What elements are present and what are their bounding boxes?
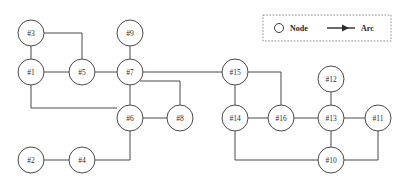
node-4[interactable]: #4: [69, 147, 95, 173]
node-label: #11: [373, 114, 384, 123]
legend: NodeArc: [263, 15, 391, 41]
node-label: #13: [325, 114, 337, 123]
edges-layer: [31, 33, 378, 160]
node-10[interactable]: #10: [318, 147, 344, 173]
edge-n3-n5: [44, 33, 82, 59]
network-diagram: #3#9#1#5#7#15#12#6#8#14#16#13#11#2#4#10 …: [0, 0, 407, 183]
legend-arc-label: Arc: [361, 24, 374, 33]
node-12[interactable]: #12: [318, 66, 344, 92]
node-15[interactable]: #15: [222, 59, 248, 85]
node-label: #12: [325, 75, 337, 84]
node-label: #1: [27, 68, 35, 77]
node-label: #3: [27, 29, 35, 38]
node-1[interactable]: #1: [18, 59, 44, 85]
node-label: #9: [126, 29, 134, 38]
node-14[interactable]: #14: [222, 105, 248, 131]
node-6[interactable]: #6: [117, 105, 143, 131]
node-3[interactable]: #3: [18, 20, 44, 46]
node-7[interactable]: #7: [117, 59, 143, 85]
node-8[interactable]: #8: [167, 105, 193, 131]
edge-n11-n10: [344, 131, 378, 160]
node-label: #15: [229, 68, 241, 77]
edge-n6-n4: [95, 131, 130, 160]
node-label: #10: [325, 156, 337, 165]
nodes-layer: #3#9#1#5#7#15#12#6#8#14#16#13#11#2#4#10: [18, 20, 391, 173]
node-16[interactable]: #16: [268, 105, 294, 131]
node-2[interactable]: #2: [18, 147, 44, 173]
node-5[interactable]: #5: [69, 59, 95, 85]
node-9[interactable]: #9: [117, 20, 143, 46]
node-label: #2: [27, 156, 35, 165]
edge-n1-n6: [31, 85, 117, 108]
edge-n7-n8: [140, 81, 180, 105]
node-13[interactable]: #13: [318, 105, 344, 131]
node-label: #16: [275, 114, 287, 123]
node-label: #5: [78, 68, 86, 77]
node-label: #8: [176, 114, 184, 123]
node-11[interactable]: #11: [365, 105, 391, 131]
node-label: #4: [78, 156, 86, 165]
node-label: #6: [126, 114, 134, 123]
circle-icon: [275, 24, 284, 33]
node-label: #14: [229, 114, 241, 123]
edge-n14-n10: [235, 131, 318, 160]
legend-node-label: Node: [290, 24, 308, 33]
edge-n15-n16: [248, 72, 281, 105]
node-label: #7: [126, 68, 134, 77]
